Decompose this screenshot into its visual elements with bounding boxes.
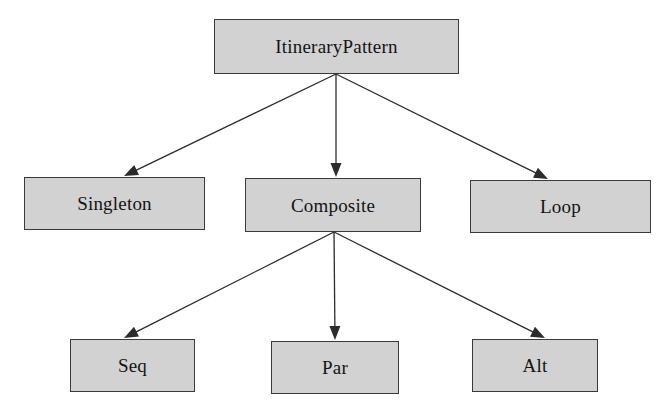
node-label: Alt: [523, 356, 548, 375]
node-loop[interactable]: Loop: [470, 180, 651, 233]
node-label: ItineraryPattern: [275, 37, 397, 56]
node-label: Composite: [291, 196, 375, 215]
node-singleton[interactable]: Singleton: [24, 177, 205, 230]
node-label: Singleton: [77, 194, 152, 213]
node-label: Seq: [118, 356, 147, 375]
node-label: Loop: [540, 197, 581, 216]
arrowhead-itinerarypattern-to-singleton: [124, 165, 139, 176]
edge-line-itinerarypattern-to-singleton: [135, 74, 336, 171]
edge-line-composite-to-seq: [135, 232, 334, 333]
node-composite[interactable]: Composite: [245, 178, 421, 232]
node-itinerarypattern[interactable]: ItineraryPattern: [214, 19, 459, 74]
arrowhead-composite-to-par: [329, 326, 340, 340]
diagram-canvas: ItineraryPattern Singleton Composite Loo…: [0, 0, 669, 406]
arrowhead-composite-to-alt: [530, 327, 545, 338]
edge-line-itinerarypattern-to-loop: [336, 74, 537, 174]
arrowhead-composite-to-seq: [124, 327, 139, 338]
node-label: Par: [322, 358, 348, 377]
arrowhead-itinerarypattern-to-loop: [533, 168, 548, 179]
edge-line-composite-to-par: [334, 232, 335, 328]
node-alt[interactable]: Alt: [472, 339, 598, 392]
edge-line-composite-to-alt: [334, 232, 534, 333]
node-par[interactable]: Par: [271, 341, 399, 394]
node-seq[interactable]: Seq: [70, 339, 195, 392]
arrowhead-itinerarypattern-to-composite: [331, 163, 342, 177]
